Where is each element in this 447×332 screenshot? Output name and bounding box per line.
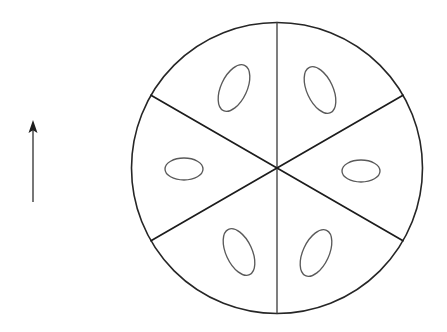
- direction-arrow-up: [29, 120, 38, 202]
- figure-root: [0, 0, 447, 332]
- diagram-canvas: [0, 0, 447, 332]
